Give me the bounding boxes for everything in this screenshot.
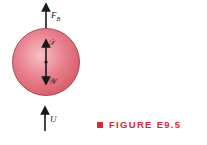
figure-caption: FIGURE E9.5 xyxy=(97,119,181,130)
weight-label: 𝒲 xyxy=(48,77,56,87)
caption-square-icon xyxy=(97,122,103,128)
drag-label: 𝒟 xyxy=(48,38,54,48)
velocity-label: U xyxy=(50,114,57,124)
caption-text: FIGURE E9.5 xyxy=(109,119,181,130)
figure-diagram: FB 𝒟 𝒲 U FIGURE E9.5 xyxy=(0,0,207,145)
buoyancy-label: FB xyxy=(51,10,60,22)
center-point xyxy=(44,60,47,63)
